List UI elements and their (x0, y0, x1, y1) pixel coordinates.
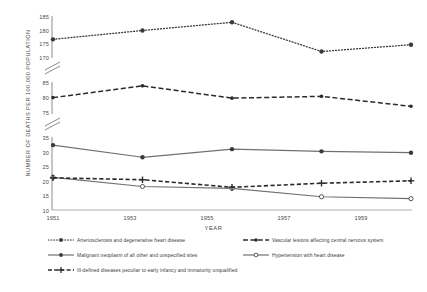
data-point-marker (319, 195, 323, 199)
solid-line-open-circle-marker-icon (243, 251, 269, 259)
legend-item-hypertension[interactable]: Hypertension with heart disease (243, 251, 345, 259)
data-point-marker (319, 149, 323, 153)
dashed-line-filled-marker-icon (243, 236, 269, 244)
data-point-marker (320, 95, 324, 99)
legend-item-malignant-neoplasm[interactable]: Malignant neoplasm of all other and unsp… (48, 251, 197, 259)
data-point-marker (319, 49, 323, 53)
axis-break-lower (45, 118, 60, 130)
data-point-marker (140, 28, 144, 32)
data-point-marker (230, 96, 234, 100)
data-point-marker (140, 155, 144, 159)
data-point-marker (318, 180, 324, 186)
series-line (51, 143, 413, 160)
series-line (51, 84, 413, 108)
dotted-line-filled-circle-marker-icon (48, 236, 74, 244)
data-point-marker (230, 147, 234, 151)
data-point-marker (139, 177, 145, 183)
solid-line-filled-circle-marker-icon (48, 251, 74, 259)
legend-label: Ill-defined diseases peculiar to early i… (77, 268, 237, 273)
legend-item-vascular-lesions[interactable]: Vascular lesions affecting central nervo… (243, 236, 384, 244)
data-point-marker (230, 20, 234, 24)
axis-break-upper (45, 62, 60, 74)
data-point-marker (50, 175, 56, 181)
data-point-marker (51, 143, 55, 147)
legend-label: Hypertension with heart disease (272, 253, 345, 258)
legend-label: Vascular lesions affecting central nervo… (272, 238, 384, 243)
data-point-marker (409, 43, 413, 47)
chart-figure: NUMBER OF DEATHS PER 100,000 POPULATION … (0, 0, 427, 292)
data-point-marker (51, 37, 55, 41)
dashed-line-plus-marker-icon (48, 266, 74, 274)
legend-label: Malignant neoplasm of all other and unsp… (77, 253, 197, 258)
data-point-marker (51, 96, 55, 100)
data-point-marker (140, 184, 144, 188)
data-point-marker (141, 84, 145, 88)
data-point-marker (409, 105, 413, 109)
series-line (51, 20, 413, 54)
data-point-marker (409, 150, 413, 154)
legend-item-arteriosclerosis[interactable]: Arteriosclerosis and degenerative heart … (48, 236, 185, 244)
data-point-marker (409, 197, 413, 201)
data-point-marker (408, 178, 414, 184)
plot-area (0, 0, 427, 292)
legend-item-ill-defined-diseases[interactable]: Ill-defined diseases peculiar to early i… (48, 266, 237, 274)
legend-label: Arteriosclerosis and degenerative heart … (77, 238, 185, 243)
